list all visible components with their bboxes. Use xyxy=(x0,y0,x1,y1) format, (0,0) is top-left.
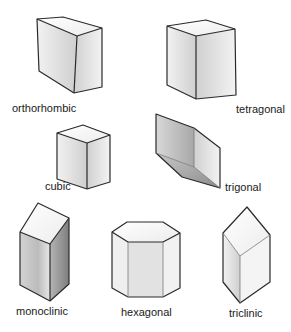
triclinic-crystal xyxy=(223,207,270,303)
label-tetragonal: tetragonal xyxy=(236,104,285,115)
monoclinic-crystal xyxy=(20,203,69,301)
hexagonal-crystal xyxy=(112,222,180,297)
label-hexagonal: hexagonal xyxy=(121,307,172,318)
crystal-systems-figure: orthorhombic tetragonal cubic trigonal m… xyxy=(0,0,291,332)
crystal-shapes xyxy=(0,0,291,332)
label-orthorhombic: orthorhombic xyxy=(12,103,76,114)
label-triclinic: triclinic xyxy=(229,308,263,319)
label-monoclinic: monoclinic xyxy=(16,306,68,317)
label-cubic: cubic xyxy=(45,181,71,192)
trigonal-crystal xyxy=(156,114,220,188)
tetragonal-crystal xyxy=(167,20,236,99)
orthorhombic-crystal xyxy=(37,17,102,93)
label-trigonal: trigonal xyxy=(225,182,261,193)
